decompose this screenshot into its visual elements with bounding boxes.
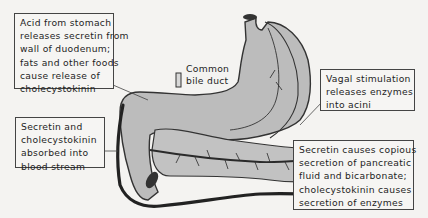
annotation-line: Secretin causes copious (299, 143, 408, 156)
annotation-line: cholecystokinin causes (299, 183, 408, 196)
annotation-line: Secretin and (21, 120, 99, 133)
pancreatic-secretion-annotation: Secretin causes copious secretion of pan… (293, 140, 414, 210)
annotation-line: Vagal stimulation (326, 72, 409, 85)
annotation-line: Acid from stomach (20, 16, 108, 29)
common-bile-duct-label: Common bile duct (186, 63, 229, 87)
label-line: bile duct (186, 75, 229, 87)
annotation-line: cause release of (20, 69, 108, 82)
annotation-line: releases enzymes (326, 85, 409, 98)
acid-secretin-annotation: Acid from stomach releases secretin from… (14, 13, 114, 89)
bile-duct-stub (176, 73, 181, 87)
annotation-line: blood stream (21, 160, 99, 173)
annotation-line: cholecystokinin (20, 82, 108, 95)
annotation-line: fluid and bicarbonate; (299, 169, 408, 182)
label-line: Common (186, 63, 229, 75)
annotation-line: absorbed into (21, 146, 99, 159)
vagal-stimulation-annotation: Vagal stimulation releases enzymes into … (320, 69, 415, 111)
annotation-line: releases secretin from (20, 29, 108, 42)
esophagus-opening (243, 14, 257, 20)
annotation-line: secretion of enzymes (299, 196, 408, 209)
annotation-line: wall of duodenum; (20, 42, 108, 55)
annotation-line: secretion of pancreatic (299, 156, 408, 169)
annotation-line: into acini (326, 98, 409, 111)
annotation-line: cholecystokinin (21, 133, 99, 146)
blood-stream-annotation: Secretin and cholecystokinin absorbed in… (15, 117, 105, 168)
annotation-line: fats and other foods (20, 56, 108, 69)
